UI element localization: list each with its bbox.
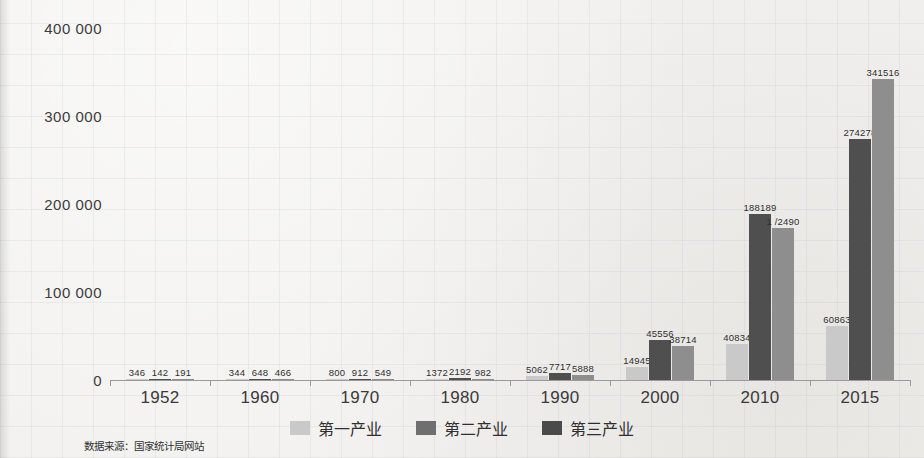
bar-item[interactable]: 341516 [872,28,894,380]
bar[interactable] [549,373,571,380]
legend-swatch-secondary-industry [416,421,436,435]
x-axis-tick-mark [910,380,911,386]
bar-value-label: 191 [175,367,191,378]
bar-item[interactable]: 142 [149,28,171,380]
bar-group: 13722192982 [410,28,510,380]
bar-value-label: 2192 [449,366,471,377]
bar-value-label: 341516 [867,67,900,78]
x-axis-labels: 19521960197019801990200020102015 [110,388,910,408]
bar-value-label: 346 [129,367,145,378]
bar-group: 800912549 [310,28,410,380]
x-axis-tick-label: 2010 [710,388,810,408]
bar[interactable] [849,139,871,380]
bar-item[interactable]: 60863 [826,28,848,380]
y-axis-tick-label: 200 000 [44,196,102,213]
bar[interactable] [672,346,694,380]
legend-item-series-2[interactable]: 第二产业 [416,416,508,440]
legend-swatch-tertiary-industry [542,421,562,435]
bar-item[interactable]: 344 [226,28,248,380]
bar-item[interactable]: 912 [349,28,371,380]
bar-group: 408341881891 /2490 [710,28,810,380]
bar-item[interactable]: 346 [126,28,148,380]
legend-label-primary-industry: 第一产业 [318,416,382,440]
bar-item[interactable]: 982 [472,28,494,380]
bar-item[interactable]: 648 [249,28,271,380]
bar-value-label: 142 [152,367,168,378]
bar-value-label: 466 [275,367,291,378]
bar-value-label: 982 [475,367,491,378]
legend-item-series-3[interactable]: 第三产业 [542,416,634,440]
bar-item[interactable]: 191 [172,28,194,380]
source-note: 数据来源：国家统计局网站 [84,438,204,453]
bar-item[interactable]: 2192 [449,28,471,380]
bar-item[interactable]: 549 [372,28,394,380]
x-axis-tick-label: 2000 [610,388,710,408]
chart-legend: 第一产业 第二产业 第三产业 [0,416,924,440]
x-axis-tick-label: 1990 [510,388,610,408]
x-axis-tick-label: 1960 [210,388,310,408]
x-axis-tick-mark [510,380,511,386]
bar-group: 344648466 [210,28,310,380]
bar[interactable] [749,214,771,380]
bar-item[interactable]: 45556 [649,28,671,380]
y-axis-tick-label: 0 [93,372,102,389]
legend-label-tertiary-industry: 第三产业 [570,416,634,440]
bar-value-label: 14945 [623,355,650,366]
bar-value-label: 549 [375,367,391,378]
x-axis-tick-mark [110,380,111,386]
bar-value-label: 38714 [669,334,696,345]
bar-value-label: 5888 [572,363,594,374]
bar[interactable] [772,228,794,380]
bar-item[interactable]: 14945 [626,28,648,380]
x-axis-tick-mark [810,380,811,386]
bar-item[interactable]: 1 /2490 [772,28,794,380]
bar-item[interactable]: 466 [272,28,294,380]
bar-item[interactable]: 5888 [572,28,594,380]
x-axis-tick-label: 1970 [310,388,410,408]
plot-area: 3461421913446484668009125491372219298250… [110,28,910,380]
bar-value-label: 800 [329,367,345,378]
x-axis-tick-label: 1980 [410,388,510,408]
bar-value-label: 1 /2490 [766,216,799,227]
bar-item[interactable]: 38714 [672,28,694,380]
bar[interactable] [826,326,848,380]
bar-item[interactable]: 5062 [526,28,548,380]
x-axis-tick-mark [310,380,311,386]
y-axis-tick-label: 100 000 [44,284,102,301]
bar-item[interactable]: 274278 [849,28,871,380]
bar[interactable] [626,367,648,380]
y-axis-tick-label: 300 000 [44,108,102,125]
x-axis-tick-label: 2015 [810,388,910,408]
bar-item[interactable]: 7717 [549,28,571,380]
legend-item-series-1[interactable]: 第一产业 [290,416,382,440]
x-axis-tick-mark [210,380,211,386]
x-axis-tick-mark [410,380,411,386]
legend-label-secondary-industry: 第二产业 [444,416,508,440]
grouped-bar-chart: 0100 000200 000300 000400 000 3461421913… [0,0,924,458]
bar-item[interactable]: 1372 [426,28,448,380]
x-axis-tick-mark [610,380,611,386]
bar-value-label: 5062 [526,364,548,375]
bar-value-label: 7717 [549,361,571,372]
bar[interactable] [726,344,748,380]
x-axis-tick-label: 1952 [110,388,210,408]
bar-group: 346142191 [110,28,210,380]
bar-group: 60863274278341516 [810,28,910,380]
bar-group: 149454555638714 [610,28,710,380]
bar-value-label: 648 [252,367,268,378]
bar-value-label: 40834 [723,332,750,343]
x-axis-tick-mark [710,380,711,386]
legend-swatch-primary-industry [290,421,310,435]
bar-group: 506277175888 [510,28,610,380]
bar-value-label: 344 [229,367,245,378]
bar-item[interactable]: 188189 [749,28,771,380]
y-axis-tick-label: 400 000 [44,20,102,37]
bar-item[interactable]: 800 [326,28,348,380]
y-axis: 0100 000200 000300 000400 000 [0,28,102,380]
bar[interactable] [872,79,894,380]
bar-value-label: 912 [352,367,368,378]
bar-value-label: 60863 [823,314,850,325]
bar-value-label: 1372 [426,367,448,378]
bar-groups: 3461421913446484668009125491372219298250… [110,28,910,380]
bar[interactable] [649,340,671,380]
